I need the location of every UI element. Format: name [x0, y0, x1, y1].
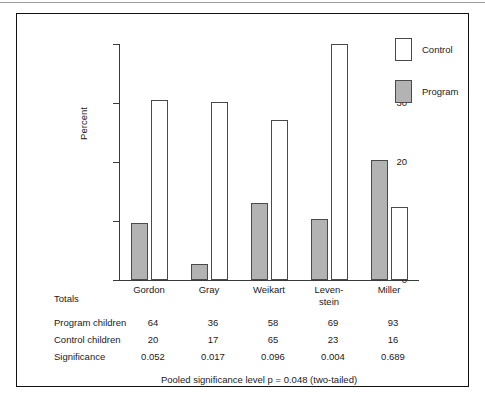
bar-control	[211, 102, 228, 280]
table-cell: 0.689	[363, 351, 423, 362]
table-cell: 58	[243, 317, 303, 328]
plot-area: 010203040 GordonGrayWeikartLeven-steinMi…	[119, 44, 419, 280]
bar-control	[151, 100, 168, 280]
table-row-label: Control children	[54, 334, 121, 345]
table-row: Significance0.0520.0170.0960.0040.689	[39, 351, 479, 368]
bar-program	[191, 264, 208, 280]
x-axis-line	[119, 280, 419, 281]
table-cell: 64	[123, 317, 183, 328]
y-tick-mark	[113, 280, 119, 281]
y-tick-mark	[113, 162, 119, 163]
totals-label: Totals	[54, 293, 79, 304]
x-axis-label: Miller	[344, 284, 434, 296]
table-row-label: Significance	[54, 351, 105, 362]
table-cell: 0.096	[243, 351, 303, 362]
table-cell: 0.017	[183, 351, 243, 362]
y-tick-mark	[113, 44, 119, 45]
table-cell: 0.004	[303, 351, 363, 362]
table-cell: 17	[183, 334, 243, 345]
table-cell: 69	[303, 317, 363, 328]
figure-frame: Percent 010203040 GordonGrayWeikartLeven…	[16, 13, 469, 387]
table-cell: 23	[303, 334, 363, 345]
legend-label-program: Program	[422, 86, 458, 97]
bar-control	[331, 44, 348, 280]
bar-control	[271, 120, 288, 280]
legend-label-control: Control	[422, 44, 453, 55]
table-row-label: Program children	[54, 317, 126, 328]
bar-program	[371, 160, 388, 280]
bar-program	[131, 223, 148, 280]
bar-program	[251, 203, 268, 280]
table-cell: 0.052	[123, 351, 183, 362]
bar-program	[311, 219, 328, 280]
data-table: Program children6436586993Control childr…	[39, 317, 479, 368]
top-divider-rule	[0, 2, 485, 3]
y-axis-label-container: Percent	[75, 14, 89, 250]
y-axis-label: Percent	[78, 64, 89, 184]
legend-swatch-control-icon	[395, 38, 412, 61]
y-tick-mark	[113, 221, 119, 222]
chart-figure: Percent 010203040 GordonGrayWeikartLeven…	[0, 0, 485, 403]
bar-control	[391, 207, 408, 280]
table-cell: 16	[363, 334, 423, 345]
table-cell: 36	[183, 317, 243, 328]
y-axis-line	[119, 44, 120, 280]
pooled-significance-note: Pooled significance level p = 0.048 (two…	[39, 374, 479, 385]
y-tick-mark	[113, 103, 119, 104]
table-row: Control children2017652316	[39, 334, 479, 351]
table-cell: 65	[243, 334, 303, 345]
table-row: Program children6436586993	[39, 317, 479, 334]
legend-swatch-program-icon	[395, 80, 412, 103]
table-cell: 20	[123, 334, 183, 345]
table-cell: 93	[363, 317, 423, 328]
x-axis-label-line: Miller	[344, 284, 434, 296]
x-axis-label-line: stein	[284, 296, 374, 308]
